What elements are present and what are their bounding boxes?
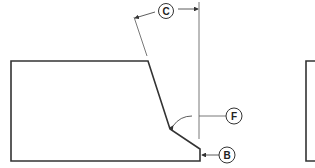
svg-text:C: C xyxy=(162,6,169,17)
weld-bevel-diagram: C F B xyxy=(0,0,315,168)
bevel-extension-line xyxy=(134,17,147,56)
callout-f: F xyxy=(226,108,242,124)
dimension-c-arrow-left xyxy=(135,12,155,18)
svg-text:F: F xyxy=(231,111,237,122)
beveled-plate-outline xyxy=(11,61,200,161)
partial-plate-outline xyxy=(306,61,315,161)
angle-f-arc xyxy=(173,116,192,126)
callout-b: B xyxy=(219,147,235,163)
svg-text:B: B xyxy=(223,150,230,161)
callout-c: C xyxy=(159,4,174,19)
